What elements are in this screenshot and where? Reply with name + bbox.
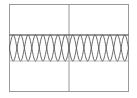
wave-plot [0,0,137,98]
